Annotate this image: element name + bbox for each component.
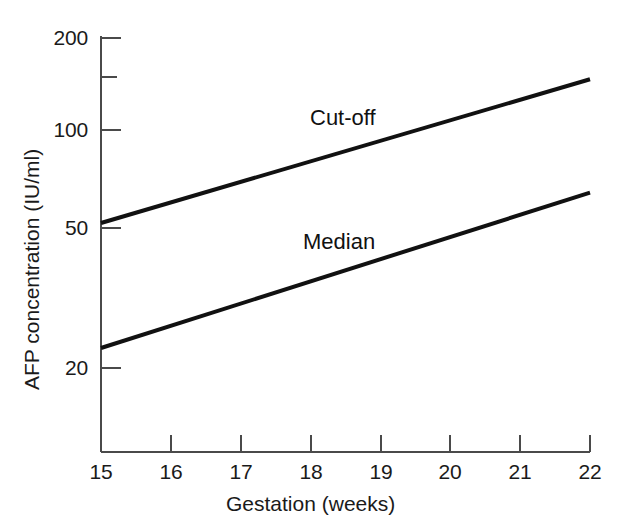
y-axis-ticks [101,38,121,368]
afp-gestation-chart: 200 100 50 20 15 16 17 18 19 20 21 22 AF… [0,0,627,530]
x-tick-label-16: 16 [160,460,183,484]
y-axis-title: AFP concentration (IU/ml) [20,149,44,390]
x-tick-label-20: 20 [439,460,462,484]
series-line-median [101,193,590,348]
x-tick-label-21: 21 [509,460,532,484]
y-tick-label-200: 200 [26,26,88,50]
x-axis-ticks [101,435,590,452]
series-line-cutoff [101,79,590,223]
x-tick-label-18: 18 [300,460,323,484]
x-axis-title: Gestation (weeks) [226,492,395,516]
series-annotation-median: Median [303,229,375,255]
x-tick-label-15: 15 [90,460,113,484]
x-tick-label-17: 17 [230,460,253,484]
x-tick-label-22: 22 [579,460,602,484]
y-tick-label-100: 100 [26,118,88,142]
series-annotation-cutoff: Cut-off [310,105,376,131]
x-tick-label-19: 19 [370,460,393,484]
plot-area [0,0,627,530]
